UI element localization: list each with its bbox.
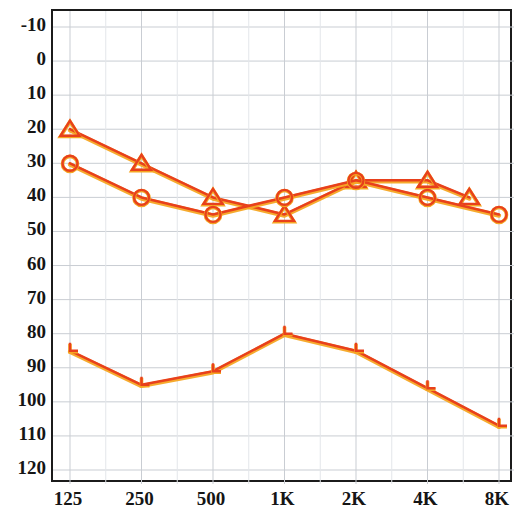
y-tick-80: 80 [0,321,46,343]
y-tick-40: 40 [0,184,46,206]
x-tick-125: 125 [54,488,83,510]
y-tick-10: 10 [0,82,46,104]
y-tick-30: 30 [0,150,46,172]
x-tick-1K: 1K [270,488,294,510]
x-tick-250: 250 [125,488,154,510]
y-tick-0: 0 [0,48,46,70]
x-tick-4K: 4K [413,488,437,510]
y-tick-70: 70 [0,287,46,309]
plot-area [51,9,512,482]
y-tick-90: 90 [0,355,46,377]
y-tick-120: 120 [0,457,46,479]
y-tick-50: 50 [0,218,46,240]
gridlines [53,11,514,484]
audiogram-chart: -100102030405060708090100110120 12525050… [0,0,517,521]
y-tick-neg10: -10 [0,14,46,36]
x-tick-2K: 2K [342,488,366,510]
y-tick-60: 60 [0,253,46,275]
x-tick-8K: 8K [485,488,509,510]
y-tick-20: 20 [0,116,46,138]
x-tick-500: 500 [197,488,226,510]
y-tick-110: 110 [0,423,46,445]
y-tick-100: 100 [0,389,46,411]
